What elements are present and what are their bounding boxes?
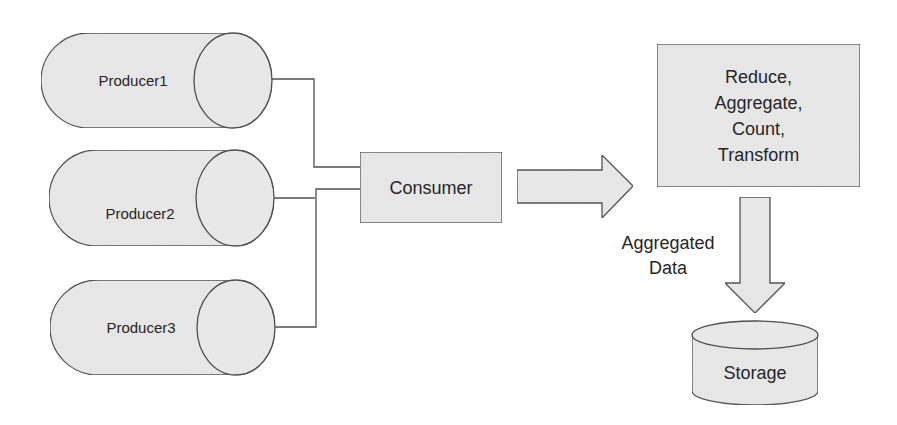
aggregated-data-label: Aggregated Data: [606, 231, 730, 281]
consumer-label: Consumer: [360, 179, 502, 197]
producer-connectors: [272, 79, 360, 327]
process-line-reduce: Reduce,: [657, 64, 860, 90]
producer1-label: Producer1: [92, 73, 174, 88]
aggregated-data-line-2: Data: [606, 256, 730, 281]
connector-producer3: [275, 189, 360, 327]
pipeline-diagram: Producer1 Producer2 Producer3 Consumer R…: [0, 0, 897, 425]
aggregated-data-line-1: Aggregated: [606, 231, 730, 256]
storage-label: Storage: [692, 364, 818, 382]
down-arrow: [725, 197, 785, 313]
process-label: Reduce, Aggregate, Count, Transform: [657, 64, 860, 168]
process-line-transform: Transform: [657, 142, 860, 168]
producer2-label: Producer2: [99, 206, 181, 221]
process-line-count: Count,: [657, 116, 860, 142]
connector-producer1: [272, 79, 360, 167]
right-arrow: [517, 155, 633, 218]
producer2-cylinder: [49, 150, 274, 246]
producer3-label: Producer3: [100, 320, 182, 335]
process-line-aggregate: Aggregate,: [657, 90, 860, 116]
